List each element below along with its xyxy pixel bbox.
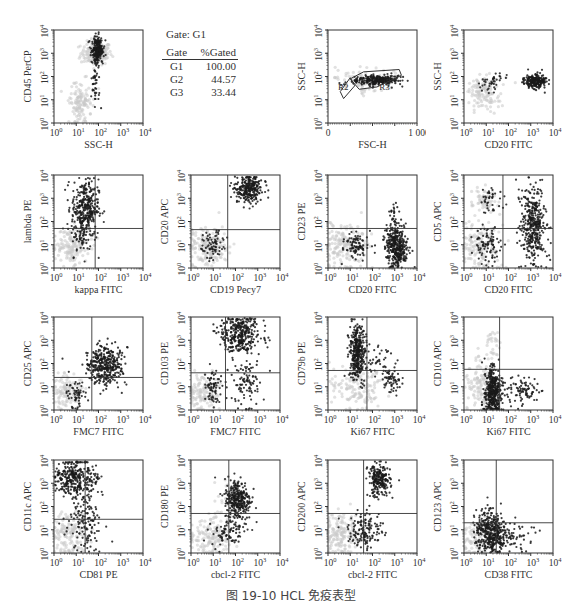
svg-text:101: 101 <box>312 381 324 394</box>
event-dots <box>53 338 129 411</box>
y-axis-label: CD200 APC <box>296 481 307 532</box>
svg-text:104: 104 <box>312 454 324 468</box>
svg-text:101: 101 <box>312 239 324 252</box>
y-axis-label: SSC-H <box>296 62 307 90</box>
svg-text:103: 103 <box>448 193 460 206</box>
svg-text:104: 104 <box>413 413 426 425</box>
svg-text:104: 104 <box>549 271 562 283</box>
svg-text:101: 101 <box>38 381 50 394</box>
svg-text:104: 104 <box>413 271 426 283</box>
svg-text:102: 102 <box>504 556 517 568</box>
svg-text:100: 100 <box>448 548 460 561</box>
svg-text:102: 102 <box>312 358 324 371</box>
svg-text:100: 100 <box>460 413 473 425</box>
svg-text:104: 104 <box>312 169 324 183</box>
svg-text:104: 104 <box>312 24 324 38</box>
svg-text:104: 104 <box>276 556 289 568</box>
svg-text:101: 101 <box>312 524 324 537</box>
svg-text:100: 100 <box>312 118 324 131</box>
x-axis-label: CD20 FITC <box>348 284 396 295</box>
svg-text:101: 101 <box>482 413 495 425</box>
svg-text:103: 103 <box>390 556 403 568</box>
scatter-plot-cd123-apc-vs-cd38-fitc: 100101102103104100101102103104CD38 FITCC… <box>432 452 562 584</box>
x-axis-label: CD38 FITC <box>484 569 532 580</box>
svg-text:102: 102 <box>231 271 244 283</box>
x-axis-label: FMC7 FITC <box>210 426 261 437</box>
svg-text:103: 103 <box>175 193 187 206</box>
svg-text:101: 101 <box>448 94 460 107</box>
svg-text:100: 100 <box>175 405 187 418</box>
svg-text:100: 100 <box>460 271 473 283</box>
scatter-plot-cd25-apc-vs-fmc7-fitc: 100101102103104100101102103104FMC7 FITCC… <box>22 309 152 441</box>
svg-text:104: 104 <box>413 556 426 568</box>
svg-text:101: 101 <box>346 556 359 568</box>
svg-text:101: 101 <box>482 126 495 138</box>
svg-text:104: 104 <box>139 271 152 283</box>
svg-text:104: 104 <box>139 556 152 568</box>
svg-text:100: 100 <box>448 118 460 131</box>
svg-text:100: 100 <box>175 548 187 561</box>
gate-pct: 33.44 <box>191 86 238 99</box>
svg-text:104: 104 <box>312 311 324 325</box>
svg-text:103: 103 <box>253 556 266 568</box>
svg-text:101: 101 <box>72 556 85 568</box>
event-dots <box>60 31 115 124</box>
event-dots <box>327 202 416 269</box>
svg-text:102: 102 <box>94 556 107 568</box>
svg-text:102: 102 <box>448 71 460 84</box>
svg-text:0: 0 <box>326 128 331 138</box>
svg-text:101: 101 <box>175 524 187 537</box>
svg-text:100: 100 <box>324 413 337 425</box>
svg-text:103: 103 <box>448 335 460 348</box>
svg-text:101: 101 <box>209 556 222 568</box>
gate-pct: 100.00 <box>191 60 238 74</box>
svg-text:103: 103 <box>116 126 129 138</box>
scatter-plot-cd5-apc-vs-cd20-fitc: 100101102103104100101102103104CD20 FITCC… <box>432 167 562 299</box>
svg-text:103: 103 <box>116 413 129 425</box>
scatter-plot-cd45-percp-vs-ssc-h: 100101102103104100101102103104SSC-HCD45 … <box>22 22 152 154</box>
y-axis-label: CD79b PE <box>296 342 307 385</box>
y-axis-label: CD10 APC <box>432 341 443 387</box>
svg-text:103: 103 <box>312 478 324 491</box>
y-axis-label: lambda PE <box>22 200 33 244</box>
svg-text:104: 104 <box>175 454 187 468</box>
svg-text:100: 100 <box>38 548 50 561</box>
scatter-plot-cd180-pe-vs-cbcl-2-fitc: 100101102103104100101102103104cbcl-2 FIT… <box>159 452 289 584</box>
svg-text:101: 101 <box>448 239 460 252</box>
svg-text:104: 104 <box>175 311 187 325</box>
svg-text:101: 101 <box>38 239 50 252</box>
svg-text:104: 104 <box>38 454 50 468</box>
svg-text:102: 102 <box>448 216 460 229</box>
svg-text:100: 100 <box>312 405 324 418</box>
svg-text:100: 100 <box>324 271 337 283</box>
svg-text:100: 100 <box>312 548 324 561</box>
svg-text:101: 101 <box>72 413 85 425</box>
svg-text:101: 101 <box>72 271 85 283</box>
gate-header: Gate <box>162 46 191 60</box>
y-axis-label: CD5 APC <box>432 201 443 242</box>
event-dots <box>53 460 113 554</box>
svg-text:101: 101 <box>175 239 187 252</box>
x-axis-label: kappa FITC <box>74 284 122 295</box>
x-axis-label: CD19 Pecy7 <box>210 284 261 295</box>
svg-text:104: 104 <box>139 413 152 425</box>
event-dots <box>190 317 271 411</box>
svg-text:102: 102 <box>504 126 517 138</box>
svg-text:102: 102 <box>312 216 324 229</box>
y-axis-label: CD123 APC <box>432 481 443 532</box>
svg-text:103: 103 <box>448 48 460 61</box>
svg-text:104: 104 <box>276 271 289 283</box>
event-dots <box>190 176 270 269</box>
gate-id: G2 <box>162 73 191 86</box>
svg-text:102: 102 <box>38 501 50 514</box>
y-axis-label: CD45 PerCP <box>22 50 33 102</box>
scatter-plot-cd23-pe-vs-cd20-fitc: 100101102103104100101102103104CD20 FITCC… <box>296 167 426 299</box>
svg-text:101: 101 <box>346 413 359 425</box>
svg-text:101: 101 <box>209 413 222 425</box>
svg-text:101: 101 <box>38 524 50 537</box>
svg-text:103: 103 <box>390 413 403 425</box>
gate-row: G1 100.00 <box>162 60 238 74</box>
svg-text:104: 104 <box>549 556 562 568</box>
svg-text:R3: R3 <box>379 82 390 92</box>
svg-text:100: 100 <box>312 263 324 276</box>
